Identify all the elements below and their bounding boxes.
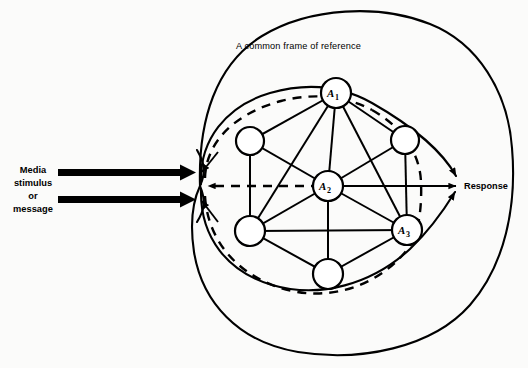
media-stimulus-label: Media stimulus or message bbox=[13, 165, 53, 214]
frame-of-reference-caption: A common frame of reference bbox=[236, 41, 361, 51]
communication-network-diagram: A1 A2 A3 A common frame of reference Res… bbox=[0, 0, 528, 368]
media-label-line-3: or bbox=[28, 191, 38, 201]
diagram-canvas: A1 A2 A3 A common frame of reference Res… bbox=[0, 0, 528, 368]
network-node-labels: A1 A2 A3 bbox=[318, 87, 410, 239]
feedback-boundary-upper bbox=[205, 96, 372, 178]
media-arrow-lower bbox=[58, 192, 196, 208]
media-label-line-1: Media bbox=[20, 165, 47, 175]
node-n7[interactable] bbox=[313, 259, 343, 289]
media-arrow-upper bbox=[58, 165, 196, 181]
media-stimulus-arrows bbox=[58, 165, 196, 208]
node-n4[interactable] bbox=[236, 127, 264, 155]
edge-a1-n6 bbox=[250, 93, 336, 231]
media-label-line-4: message bbox=[13, 204, 53, 214]
edge-n6-a3 bbox=[250, 230, 407, 231]
response-label: Response bbox=[464, 181, 508, 191]
media-label-line-2: stimulus bbox=[14, 178, 52, 188]
node-n5[interactable] bbox=[391, 126, 419, 154]
node-n6[interactable] bbox=[235, 216, 265, 246]
